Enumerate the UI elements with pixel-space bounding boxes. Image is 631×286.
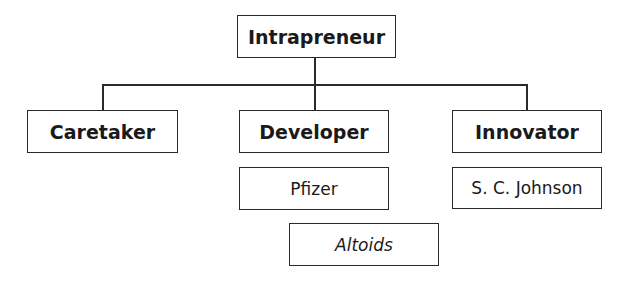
node-innovator: Innovator (452, 110, 602, 153)
node-intrapreneur: Intrapreneur (237, 15, 396, 58)
root-stem-connector (314, 57, 316, 85)
example-pfizer: Pfizer (239, 167, 389, 210)
node-developer: Developer (239, 110, 389, 153)
developer-connector (314, 84, 316, 111)
caretaker-connector (102, 84, 104, 111)
innovator-connector (526, 84, 528, 111)
example-sc-johnson: S. C. Johnson (452, 167, 602, 209)
example-altoids: Altoids (289, 223, 439, 266)
node-caretaker: Caretaker (27, 110, 178, 153)
